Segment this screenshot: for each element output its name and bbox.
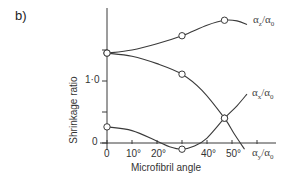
series-label: αz/α0 — [253, 13, 274, 28]
data-point-marker — [179, 146, 185, 152]
series-curve — [107, 20, 247, 53]
data-point-marker — [104, 50, 110, 56]
x-tick-label: 40° — [201, 148, 216, 159]
x-axis-label: Microfibril angle — [131, 162, 201, 173]
data-point-marker — [221, 17, 227, 23]
series-curve — [107, 53, 245, 149]
data-point-marker — [179, 71, 185, 77]
series-label: αy/α0 — [252, 146, 274, 161]
x-tick-label: 20° — [151, 148, 166, 159]
data-point-marker — [221, 115, 227, 121]
series-label: αx/α0 — [252, 86, 274, 101]
panel-label: b) — [15, 8, 27, 23]
x-tick-label: 0 — [104, 148, 110, 159]
x-tick-label: 50° — [226, 148, 241, 159]
data-point-marker — [104, 124, 110, 130]
y-tick-label: 0 — [92, 136, 98, 147]
x-tick-label: 10° — [126, 148, 141, 159]
series-curve — [107, 94, 247, 149]
data-point-marker — [179, 33, 185, 39]
y-axis-label: Shrinkage ratio — [68, 76, 79, 143]
y-tick-label: 1·0 — [85, 74, 99, 85]
